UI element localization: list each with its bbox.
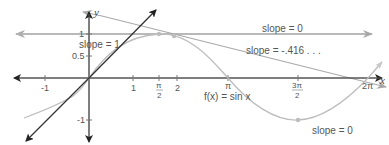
tangent-point-2 [172,34,176,38]
sine-tangent-diagram: y x -1 1 π 2 2 π 3π 2 2π 1 0.5 -1 slope … [0,0,389,145]
x-tick-label-neg1: -1 [41,83,49,93]
x-tick-label-1: 1 [131,83,136,93]
y-tick-label-0-5: 0.5 [72,51,85,61]
x-tick-label-pi-over-2-num: π [156,81,162,90]
x-tick-label-pi: π [225,81,231,91]
y-axis-label: y [93,6,99,18]
tangent-point-3pi-over-2 [296,118,300,122]
tangent-line-slope-neg [83,12,102,16]
sine-curve [24,34,382,120]
annotation-slope-one: slope = 1 [79,39,120,50]
x-tick-label-pi-over-2-den: 2 [157,91,162,100]
y-tick-label-1: 1 [79,29,84,39]
diagram-canvas: y x -1 1 π 2 2 π 3π 2 2π 1 0.5 -1 slope … [0,0,389,145]
y-tick-label-neg1: -1 [77,115,85,125]
x-tick-label-2pi: 2π [362,81,373,91]
annotation-slope-negative: slope = -.416 . . . [246,45,321,56]
annotation-slope-zero-top: slope = 0 [262,23,303,34]
tangent-point-pi-over-2 [157,32,161,36]
annotation-slope-zero-bottom: slope = 0 [312,125,353,136]
x-axis-label: x [379,74,385,86]
function-label: f(x) = sin x [204,91,250,102]
x-tick-label-3pi-over-2-num: 3π [292,81,302,90]
x-tick-label-3pi-over-2-den: 2 [295,91,300,100]
x-tick-label-2: 2 [175,83,180,93]
